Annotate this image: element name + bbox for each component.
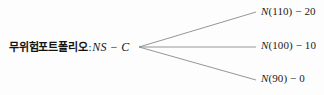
- leaf-up-argument: (110): [268, 5, 292, 17]
- leaf-down-argument: (90): [268, 72, 287, 84]
- leaf-middle-operator: −: [296, 39, 302, 51]
- leaf-label-middle: N(100) − 10: [261, 39, 316, 51]
- payoff-tree-diagram: 무위험포트폴리오:NS − C N(110) − 20 N(100) − 10 …: [0, 0, 324, 95]
- root-node-label: 무위험포트폴리오:NS − C: [9, 38, 130, 55]
- leaf-middle-argument: (100): [268, 39, 292, 51]
- leaf-label-down: N(90) − 0: [261, 72, 305, 84]
- root-expression: NS − C: [92, 40, 129, 54]
- leaf-label-up: N(110) − 20: [261, 5, 316, 17]
- leaf-down-value: 0: [299, 72, 305, 84]
- leaf-up-operator: −: [295, 5, 301, 17]
- leaf-middle-value: 10: [305, 39, 316, 51]
- leaf-up-value: 20: [304, 5, 315, 17]
- branch-line-up: [139, 12, 256, 47]
- root-korean-text: 무위험포트폴리오: [9, 41, 87, 53]
- leaf-down-operator: −: [290, 72, 296, 84]
- branch-line-down: [139, 47, 256, 80]
